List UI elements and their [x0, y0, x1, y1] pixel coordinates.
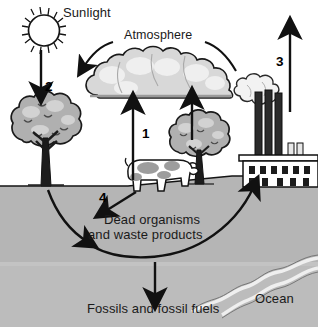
diagram-canvas: [0, 0, 318, 327]
arrow-number-1: 1: [142, 126, 150, 141]
label-ocean: Ocean: [255, 292, 294, 306]
arrow-number-2: 2: [45, 79, 53, 94]
roof-vent-a: [288, 143, 294, 156]
roof-vent-b: [297, 143, 303, 156]
arrow-number-4: 4: [99, 190, 107, 205]
cloud-icon: [86, 47, 233, 99]
cow-icon: [125, 158, 198, 191]
label-dead-organisms-line1: Dead organisms: [104, 213, 200, 227]
cow-tail: [125, 158, 128, 166]
carbon-cycle-diagram: Sunlight Atmosphere Dead organisms and w…: [0, 0, 318, 327]
label-atmosphere: Atmosphere: [124, 29, 192, 42]
tree-icon-left: [11, 91, 81, 186]
label-fossils-and-fossil-fuels: Fossils and fossil fuels: [87, 302, 219, 316]
factory-roof: [239, 155, 318, 161]
factory-icon: [234, 74, 318, 187]
sun-icon: [22, 7, 66, 54]
sun-disc: [29, 15, 60, 46]
label-sunlight: Sunlight: [63, 6, 111, 20]
arrow-number-3: 3: [276, 54, 284, 69]
smokestacks: [255, 90, 282, 156]
label-dead-organisms-line2: and waste products: [88, 228, 203, 242]
subsurface-band: [0, 262, 318, 266]
